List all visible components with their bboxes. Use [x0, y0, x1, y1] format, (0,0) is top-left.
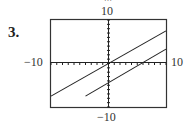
- line-2: [86, 49, 167, 96]
- graph-window: [0, 0, 192, 127]
